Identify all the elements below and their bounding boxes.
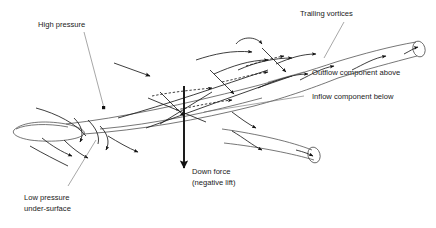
freestream-arrow (114, 63, 150, 76)
outflow-streamline-5 (276, 54, 316, 64)
leader-inflow-component (204, 96, 304, 112)
airfoil-camber-line (16, 125, 68, 129)
inflow-dashed-streamline-3 (222, 72, 268, 82)
aerodynamics-diagram: High pressure Trailing vortices Outflow … (0, 0, 436, 228)
label-down-force-line2: (negative lift) (192, 178, 236, 187)
leader-low-pressure (68, 140, 96, 186)
inflow-arrow-4 (232, 112, 256, 128)
lower-tube-top-edge (222, 129, 312, 150)
lower-tube-spiral-arrow-2 (296, 150, 313, 156)
diagram-canvas: High pressure Trailing vortices Outflow … (0, 0, 436, 228)
vortex-rotation-arc (236, 38, 262, 44)
root-underflow-arrow-1 (64, 140, 88, 158)
outflow-streamline-4 (258, 74, 308, 88)
wing-leading-edge (66, 62, 336, 124)
leader-trailing-vortices (324, 22, 344, 58)
inflow-arrow-2 (210, 70, 234, 94)
upper-tube-spiral-arrow-3 (404, 47, 418, 54)
root-curl-arrow-2 (100, 126, 108, 150)
root-underflow-arrow-3 (108, 136, 138, 152)
high-pressure-anchor-dot (102, 106, 105, 109)
label-low-pressure-line2: under-surface (24, 204, 71, 213)
wing-trailing-edge (84, 78, 338, 134)
center-cross-line-a (148, 98, 206, 122)
label-high-pressure: High pressure (38, 20, 85, 29)
root-wrap-streamline (88, 120, 99, 144)
label-outflow-component: Outflow component above (312, 68, 400, 77)
label-trailing-vortices: Trailing vortices (300, 9, 353, 18)
lower-vortex-tube (222, 129, 322, 164)
leader-high-pressure (84, 32, 104, 108)
lower-tube-spiral-arrow-1 (232, 131, 262, 150)
wing-body (13, 62, 338, 141)
flow-streamlines (30, 38, 316, 166)
label-down-force-line1: Down force (192, 167, 230, 176)
outflow-streamline-1 (196, 51, 252, 60)
label-low-pressure-line1: Low pressure (24, 193, 70, 202)
root-lower-streamline (30, 146, 68, 166)
leader-outflow-component (268, 72, 304, 82)
label-inflow-component: Inflow component below (312, 92, 394, 101)
